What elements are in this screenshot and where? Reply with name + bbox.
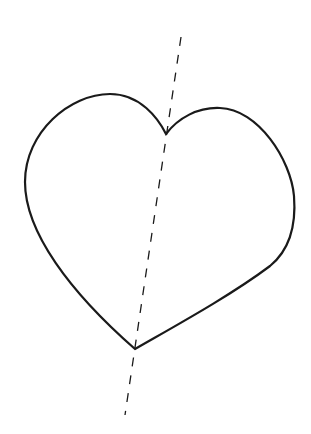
diagram-svg	[0, 0, 311, 434]
diagram-canvas	[0, 0, 311, 434]
background	[0, 0, 311, 434]
